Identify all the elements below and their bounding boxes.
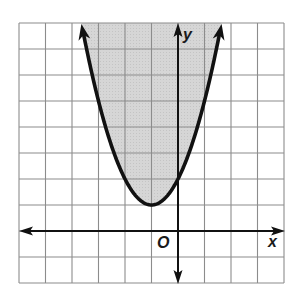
x-axis-label: x <box>267 233 278 250</box>
origin-label: O <box>157 234 170 251</box>
y-axis-label: y <box>182 26 193 43</box>
coordinate-graph: y x O <box>0 0 294 291</box>
grid <box>19 23 284 283</box>
